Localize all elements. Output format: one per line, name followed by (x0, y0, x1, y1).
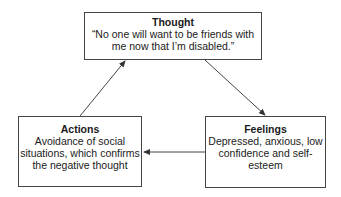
feelings-title: Feelings (206, 123, 325, 135)
actions-body: Avoidance of social situations, which co… (19, 135, 141, 171)
thought-body: “No one will want to be friends with me … (85, 28, 261, 52)
actions-title: Actions (19, 123, 141, 135)
arrow-actions-to-thought (80, 61, 125, 116)
feelings-box: Feelings Depressed, anxious, low confide… (205, 116, 326, 188)
thought-box: Thought “No one will want to be friends … (84, 12, 262, 60)
actions-box: Actions Avoidance of social situations, … (18, 116, 142, 187)
feelings-body: Depressed, anxious, low confidence and s… (206, 135, 325, 171)
arrow-thought-to-feelings (205, 60, 265, 115)
thought-title: Thought (85, 16, 261, 28)
